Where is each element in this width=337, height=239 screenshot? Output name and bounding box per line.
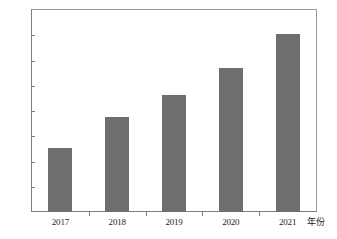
bar-2018 (105, 117, 129, 212)
x-tick-mark (146, 212, 147, 216)
bar-2019 (162, 95, 186, 212)
x-tick-label-2017: 2017 (30, 217, 90, 227)
x-tick-label-2018: 2018 (87, 217, 147, 227)
bar-2020 (219, 68, 243, 212)
y-axis: 122012401260128013001320134013601380 (0, 0, 31, 221)
x-tick-mark (89, 212, 90, 216)
bars-layer (32, 10, 316, 212)
x-tick-label-2020: 2020 (201, 217, 261, 227)
x-tick-mark (259, 212, 260, 216)
bar-chart: 122012401260128013001320134013601380 年份 … (0, 0, 337, 239)
x-tick-label-2019: 2019 (144, 217, 204, 227)
x-tick-label-2021: 2021 (258, 217, 318, 227)
x-tick-mark (202, 212, 203, 216)
bar-2021 (276, 34, 300, 212)
bar-2017 (48, 148, 72, 212)
